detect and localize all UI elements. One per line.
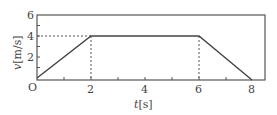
plot-frame: [37, 15, 265, 80]
x-tick-2: 2: [87, 83, 94, 96]
velocity-line: [37, 36, 252, 80]
velocity-time-chart: 6 4 2 O 2 4 6 8 t[s] v[m/s]: [0, 0, 277, 115]
y-axis-label: v[m/s]: [11, 35, 24, 70]
dashed-guides: [37, 36, 199, 80]
x-tick-8: 8: [248, 83, 255, 96]
x-axis-unit: [s]: [138, 98, 152, 111]
y-tick-2: 2: [27, 51, 34, 64]
x-tick-6: 6: [195, 83, 202, 96]
y-tick-6: 6: [27, 9, 34, 22]
x-tick-4: 4: [141, 83, 148, 96]
origin-label: O: [28, 81, 37, 94]
y-tick-4: 4: [27, 30, 34, 43]
y-axis-unit: [m/s]: [11, 35, 24, 63]
x-axis-label: t[s]: [134, 98, 153, 111]
